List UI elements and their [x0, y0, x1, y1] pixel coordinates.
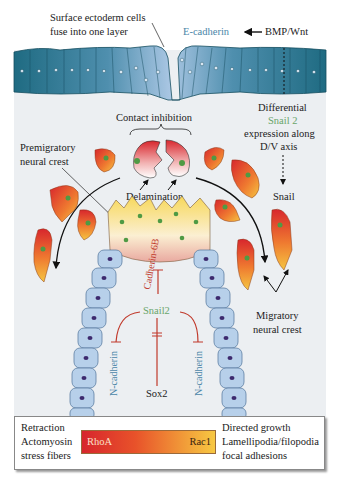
legend-left: Retraction Actomyosin stress fibers: [21, 421, 72, 463]
legend-left-line-1: Retraction: [21, 421, 72, 435]
differential-label-2: Snail 2: [268, 115, 297, 126]
rhoa-label: RhoA: [87, 436, 112, 447]
legend-left-line-2: Actomyosin: [21, 435, 72, 449]
pointer-line: [152, 23, 164, 47]
n-cadherin-left-label: N-cadherin: [108, 351, 119, 396]
premigratory-label-1: Premigratory: [20, 142, 76, 153]
neural-crest-diagram: Surface ectoderm cells fuse into one lay…: [0, 0, 346, 484]
legend-right-line-2: Lamellipodia/filopodia: [222, 435, 319, 449]
migratory-label-2: neural crest: [253, 324, 302, 335]
surface-ectoderm-label-1: Surface ectoderm cells: [50, 12, 146, 23]
n-cadherin-right-label: N-cadherin: [193, 351, 204, 396]
legend-right-line-1: Directed growth: [222, 421, 319, 435]
e-cadherin-label: E-cadherin: [183, 26, 230, 37]
snail-label: Snail: [273, 191, 295, 202]
differential-label-1: Differential: [258, 102, 307, 113]
differential-label-3: expression along: [244, 128, 316, 139]
rac1-label: Rac1: [189, 436, 211, 447]
legend-left-line-3: stress fibers: [21, 449, 72, 463]
premigratory-label-2: neural crest: [20, 156, 69, 167]
migratory-label-1: Migratory: [256, 310, 299, 321]
legend-right-line-3: focal adhesions: [222, 449, 319, 463]
sox2-label: Sox2: [146, 388, 168, 399]
contact-inhibition-label: Contact inhibition: [116, 112, 193, 123]
snail2-label: Snail2: [143, 305, 170, 316]
differential-label-4: D/V axis: [260, 141, 297, 152]
rhoa-rac1-gradient-bar: RhoA Rac1: [81, 430, 216, 454]
legend-box: Retraction Actomyosin stress fibers RhoA…: [14, 416, 325, 470]
surface-ectoderm-label-2: fuse into one layer: [50, 26, 128, 37]
legend-right: Directed growth Lamellipodia/filopodia f…: [222, 421, 319, 463]
bmp-wnt-label: BMP/Wnt: [265, 26, 308, 37]
